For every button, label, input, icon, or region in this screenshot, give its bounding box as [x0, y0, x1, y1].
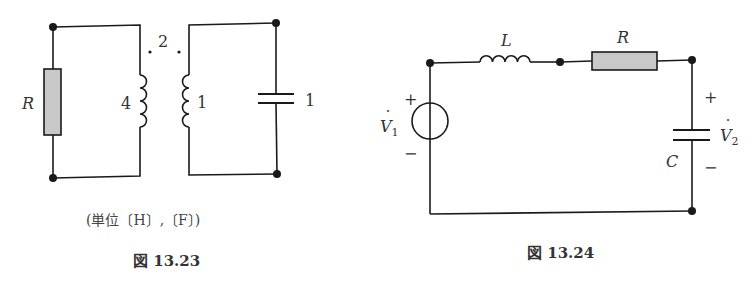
source-minus-sign: − — [404, 146, 417, 162]
primary-inductance-label: 4 — [121, 96, 131, 112]
fig-13-23-circuit — [44, 23, 294, 178]
secondary-inductance-label: 1 — [197, 95, 207, 111]
resistor-r — [592, 52, 657, 70]
capacitor-label: C — [666, 154, 678, 170]
node-top-left — [49, 23, 57, 31]
units-note: (単位〔H〕,〔F〕) — [86, 209, 200, 229]
resistor-label: R — [617, 30, 629, 46]
output-minus-sign: − — [704, 160, 717, 176]
node-bottom-left — [49, 174, 57, 182]
mutual-inductance-label: 2 — [158, 34, 168, 50]
capacitance-label: 1 — [305, 93, 315, 109]
wire-bottom — [430, 211, 692, 214]
secondary-coil — [183, 75, 190, 127]
primary-loop-bottom-wire — [53, 127, 140, 178]
output-voltage-subscript: 2 — [732, 135, 739, 148]
output-plus-sign: + — [704, 90, 717, 106]
fig-13-24-nodes — [426, 56, 696, 215]
secondary-loop-bottom-wire — [189, 127, 277, 175]
source-voltage-label: V1 — [380, 119, 399, 138]
polarity-dot-secondary — [177, 50, 180, 53]
source-voltage-symbol: V — [380, 119, 392, 135]
wire-source-to-inductor — [430, 62, 480, 63]
capacitor-lead-bottom — [276, 103, 277, 174]
node-top-left — [426, 59, 434, 67]
primary-coil — [140, 75, 147, 127]
output-voltage-symbol: V — [720, 128, 732, 144]
polarity-dot-primary — [148, 50, 151, 53]
source-voltage-subscript: 1 — [392, 126, 399, 139]
figure-caption-13-24: 図 13.24 — [527, 241, 594, 262]
figure-caption-13-23: 図 13.23 — [133, 249, 200, 270]
circuit-diagrams — [0, 0, 753, 287]
inductor-label: L — [501, 33, 512, 49]
wire-resistor-to-node — [657, 60, 692, 61]
primary-loop-top-wire — [53, 25, 140, 75]
node-bottom-right — [688, 207, 696, 215]
node-middle — [556, 58, 564, 66]
output-voltage-label: V2 — [720, 128, 739, 147]
node-top-right — [272, 19, 280, 27]
node-top-right — [688, 56, 696, 64]
source-plus-sign: + — [404, 92, 417, 108]
resistor-label: R — [22, 96, 34, 112]
node-bottom-right — [273, 170, 281, 178]
inductor-l — [480, 56, 530, 62]
secondary-loop-top-wire — [189, 23, 276, 75]
resistor-r — [44, 69, 61, 135]
fig-13-24-circuit — [412, 52, 710, 214]
wire-node-to-resistor — [560, 61, 592, 62]
